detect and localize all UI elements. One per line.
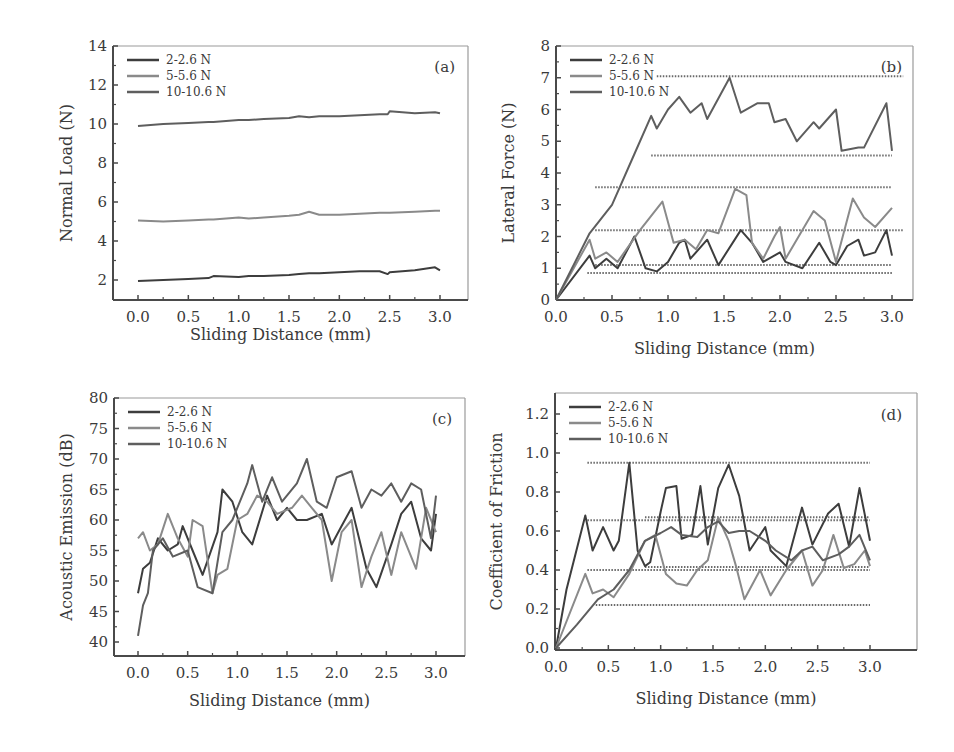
y-axis-title: Acoustic Emission (dB)	[57, 433, 76, 621]
series-line-1	[556, 463, 870, 648]
panel-c-acoustic-emission-chart: 0.00.51.01.52.02.53.0404550556065707580S…	[57, 389, 465, 710]
y-tick-label: 75	[89, 420, 108, 438]
x-tick-label: 0.5	[176, 308, 200, 326]
x-tick-label: 1.0	[656, 308, 680, 326]
x-tick-label: 0.5	[176, 664, 200, 682]
legend-label: 5-5.6 N	[608, 416, 653, 430]
legend-label: 10-10.6 N	[608, 432, 668, 446]
y-tick-label: 0.2	[525, 600, 549, 618]
x-axis-title: Sliding Distance (mm)	[189, 691, 370, 710]
series-line-2	[138, 211, 440, 222]
x-tick-label: 3.0	[424, 664, 448, 682]
x-tick-label: 1.5	[275, 664, 299, 682]
x-tick-label: 0.5	[600, 308, 624, 326]
x-axis-title: Sliding Distance (mm)	[634, 339, 815, 358]
legend: 2-2.6 N5-5.6 N10-10.6 N	[569, 400, 668, 446]
legend-label: 5-5.6 N	[166, 69, 211, 83]
y-tick-label: 3	[540, 196, 550, 214]
y-tick-label: 6	[540, 101, 550, 119]
panel-label: (d)	[881, 406, 902, 424]
y-tick-label: 8	[97, 154, 107, 172]
x-tick-label: 1.5	[277, 308, 301, 326]
y-tick-label: 0.6	[525, 522, 549, 540]
y-tick-label: 45	[89, 603, 108, 621]
y-tick-label: 4	[540, 164, 550, 182]
y-tick-label: 12	[88, 76, 107, 94]
y-axis-title: Normal Load (N)	[57, 104, 76, 242]
y-tick-label: 0.8	[525, 483, 549, 501]
panel-b-lateral-force-chart: 0.00.51.01.52.02.53.0012345678Sliding Di…	[499, 37, 913, 358]
legend-label: 2-2.6 N	[608, 400, 653, 414]
y-tick-label: 0.0	[525, 639, 549, 657]
x-tick-label: 1.5	[701, 658, 725, 676]
y-tick-label: 2	[540, 228, 550, 246]
x-tick-label: 2.0	[753, 658, 777, 676]
legend-label: 5-5.6 N	[167, 421, 212, 435]
legend: 2-2.6 N5-5.6 N10-10.6 N	[128, 405, 227, 451]
legend: 2-2.6 N5-5.6 N10-10.6 N	[570, 53, 669, 99]
series-line-2	[556, 517, 870, 648]
x-tick-label: 1.0	[225, 664, 249, 682]
y-tick-label: 55	[89, 542, 108, 560]
y-tick-label: 1.0	[525, 444, 549, 462]
panel-label: (a)	[434, 58, 455, 76]
x-tick-label: 0.0	[544, 308, 568, 326]
y-tick-label: 60	[89, 511, 108, 529]
x-axis-title: Sliding Distance (mm)	[636, 689, 817, 708]
x-tick-label: 1.0	[649, 658, 673, 676]
x-tick-label: 2.5	[374, 664, 398, 682]
legend-label: 10-10.6 N	[166, 85, 226, 99]
legend-label: 10-10.6 N	[609, 85, 669, 99]
y-tick-label: 40	[89, 633, 108, 651]
series-line-1	[138, 490, 436, 594]
y-tick-label: 0	[540, 291, 550, 309]
y-tick-label: 4	[97, 232, 107, 250]
y-tick-label: 1	[540, 259, 550, 277]
x-tick-label: 0.5	[596, 658, 620, 676]
panel-a-normal-load-chart: 0.00.51.01.52.02.53.02468101214Sliding D…	[57, 37, 468, 344]
legend: 2-2.6 N5-5.6 N10-10.6 N	[127, 53, 226, 99]
panel-label: (b)	[881, 58, 902, 76]
legend-label: 2-2.6 N	[167, 405, 212, 419]
y-tick-label: 5	[540, 132, 550, 150]
x-tick-label: 2.5	[806, 658, 830, 676]
y-tick-label: 8	[540, 37, 550, 55]
y-tick-label: 6	[97, 193, 107, 211]
x-tick-label: 1.0	[227, 308, 251, 326]
y-axis-title: Lateral Force (N)	[499, 103, 518, 244]
y-tick-label: 65	[89, 481, 108, 499]
panel-label: (c)	[432, 410, 452, 428]
y-tick-label: 70	[89, 450, 108, 468]
y-tick-label: 7	[540, 69, 550, 87]
legend-label: 2-2.6 N	[166, 53, 211, 67]
y-tick-label: 10	[88, 115, 107, 133]
x-tick-label: 3.0	[880, 308, 904, 326]
x-tick-label: 1.5	[712, 308, 736, 326]
y-tick-label: 14	[88, 37, 107, 55]
series-line-3	[138, 111, 440, 126]
x-tick-label: 0.0	[126, 308, 150, 326]
y-tick-label: 2	[97, 271, 107, 289]
series-line-3	[556, 78, 892, 300]
x-tick-label: 2.5	[378, 308, 402, 326]
x-tick-label: 2.0	[325, 664, 349, 682]
y-tick-label: 50	[89, 572, 108, 590]
x-tick-label: 0.0	[126, 664, 150, 682]
y-tick-label: 80	[89, 389, 108, 407]
x-tick-label: 2.5	[824, 308, 848, 326]
x-axis-title: Sliding Distance (mm)	[190, 325, 371, 344]
legend-label: 2-2.6 N	[609, 53, 654, 67]
y-tick-label: 1.2	[525, 405, 549, 423]
x-tick-label: 0.0	[544, 658, 568, 676]
legend-label: 10-10.6 N	[167, 437, 227, 451]
series-line-2	[556, 189, 892, 300]
figure: 0.00.51.01.52.02.53.02468101214Sliding D…	[0, 0, 954, 752]
x-tick-label: 3.0	[858, 658, 882, 676]
legend-label: 5-5.6 N	[609, 69, 654, 83]
series-line-1	[138, 267, 440, 281]
y-tick-label: 0.4	[525, 561, 549, 579]
y-axis-title: Coefficient of Friction	[487, 432, 506, 610]
panel-d-coefficient-of-friction-chart: 0.00.51.01.52.02.53.00.00.20.40.60.81.01…	[487, 393, 917, 708]
x-tick-label: 2.0	[768, 308, 792, 326]
x-tick-label: 2.0	[327, 308, 351, 326]
